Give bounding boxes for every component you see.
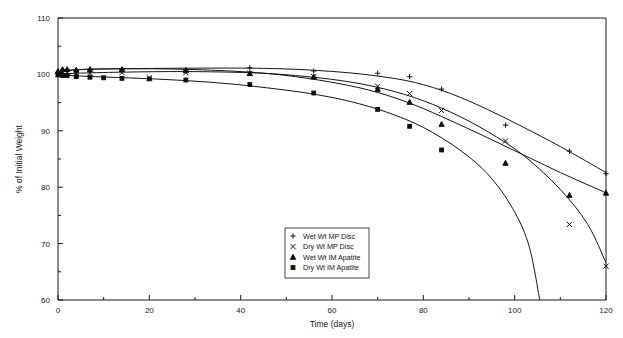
data-point-marker <box>65 74 69 78</box>
data-point-marker <box>102 76 106 80</box>
x-axis-title: Time (days) <box>310 319 355 329</box>
x-tick-label: 120 <box>599 306 613 315</box>
x-tick-label: 60 <box>328 306 337 315</box>
data-point-marker <box>61 74 65 78</box>
y-axis-title: % of Initial Weight <box>14 124 24 193</box>
x-tick-label: 20 <box>145 306 154 315</box>
x-tick-label: 100 <box>508 306 522 315</box>
legend-item-label: Wet Wt MP Disc <box>303 232 355 241</box>
data-point-marker <box>440 148 444 152</box>
data-point-marker <box>184 78 188 82</box>
x-tick-label: 40 <box>236 306 245 315</box>
data-point-marker <box>376 107 380 111</box>
y-tick-label: 90 <box>41 127 50 136</box>
weight-loss-line-chart: 60708090100110020406080100120 Wet Wt MP … <box>0 0 623 338</box>
legend-item-label: Dry Wt MP Disc <box>303 242 354 251</box>
legend-item-label: Wet Wt IM Apatite <box>303 253 360 262</box>
data-point-marker <box>74 75 78 79</box>
data-point-marker <box>88 75 92 79</box>
x-tick-label: 80 <box>419 306 428 315</box>
y-tick-label: 110 <box>37 14 50 23</box>
x-tick-label: 0 <box>56 306 61 315</box>
data-point-marker <box>248 83 252 87</box>
y-tick-label: 60 <box>41 296 50 305</box>
chart-background <box>0 0 623 338</box>
data-point-marker <box>56 73 60 77</box>
legend-item-label: Dry Wt IM Apatite <box>303 263 359 272</box>
data-point-marker <box>120 76 124 80</box>
y-tick-label: 100 <box>37 70 51 79</box>
data-point-marker <box>408 124 412 128</box>
data-point-marker <box>312 91 316 95</box>
legend: Wet Wt MP DiscDry Wt MP DiscWet Wt IM Ap… <box>285 228 369 278</box>
chart-page: 60708090100110020406080100120 Wet Wt MP … <box>0 0 623 338</box>
data-point-marker <box>147 77 151 81</box>
legend-marker-icon <box>291 266 295 270</box>
y-tick-label: 70 <box>41 240 50 249</box>
y-tick-label: 80 <box>41 183 50 192</box>
